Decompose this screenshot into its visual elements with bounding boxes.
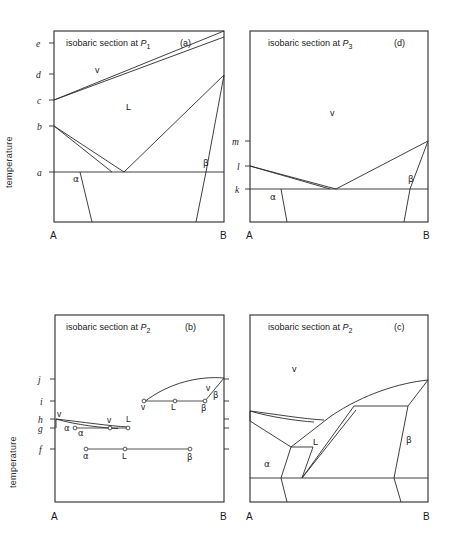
panel-b: isobaric section at P2 (b) v L β v β v α… <box>0 290 240 534</box>
panel-b-label-v-loop: v <box>206 383 211 393</box>
panel-d-region-beta: β <box>408 174 414 184</box>
panel-a-region-L: L <box>126 102 131 112</box>
panel-d-region-v: v <box>330 108 335 118</box>
panel-b-tieline-f <box>84 447 192 451</box>
panel-d-tick-l: l <box>237 162 240 172</box>
panel-d-ticks <box>245 141 250 189</box>
panel-c-corner-A: A <box>246 511 253 522</box>
panel-b-title: isobaric section at P2 <box>66 322 151 334</box>
panel-b-label-L-f: L <box>122 451 127 461</box>
panel-c-corner-B: B <box>423 511 430 522</box>
panel-c-solid-boundaries <box>250 406 428 502</box>
panel-c-tag: (c) <box>394 322 405 332</box>
panel-a-tick-c: c <box>37 96 42 106</box>
panel-c-region-v: v <box>292 364 297 374</box>
panel-d-tick-m: m <box>232 137 239 147</box>
panel-c-region-L: L <box>313 437 318 447</box>
panel-a-phase-boundaries <box>54 75 224 222</box>
panel-b-tick-f: f <box>39 445 43 455</box>
panel-b-tick-j: j <box>36 375 41 385</box>
phase-diagram-figure: temperature <box>0 0 454 534</box>
panel-d-frame <box>250 31 428 222</box>
panel-c-left-loop <box>250 411 324 422</box>
panel-a-corner-A: A <box>50 230 57 241</box>
panel-a-tick-a: a <box>37 168 42 178</box>
panel-b-ticks-left <box>50 379 55 449</box>
panel-b-tag: (b) <box>185 322 196 332</box>
panel-d-title: isobaric section at P3 <box>268 38 353 50</box>
panel-b-label-v-upper: v <box>141 402 146 412</box>
panel-b-label-v-left: v <box>57 409 62 419</box>
panel-b-label-L-upper: L <box>171 402 176 412</box>
panel-c: isobaric section at P2 (c) v L α β A B <box>224 290 454 534</box>
panel-a-region-beta: β <box>203 158 209 168</box>
panel-d-tick-k: k <box>235 185 240 195</box>
panel-b-label-v-tie: v <box>107 415 112 425</box>
panel-d-phase-boundaries <box>250 141 428 222</box>
panel-b-label-beta-f: β <box>187 452 192 462</box>
panel-a-region-alpha: α <box>73 174 79 184</box>
panel-d: isobaric section at P3 (d) v α β A B m l… <box>224 0 454 250</box>
panel-b-upper-loop <box>144 378 224 402</box>
panel-c-region-beta: β <box>406 435 412 445</box>
panel-d-tag: (d) <box>394 38 405 48</box>
panel-b-label-alpha-f: α <box>83 451 89 461</box>
panel-d-corner-A: A <box>246 230 253 241</box>
panel-b-corner-A: A <box>51 511 58 522</box>
panel-a-tick-e: e <box>36 39 40 49</box>
panel-c-frame <box>250 315 428 502</box>
panel-b-label-alpha-left: α <box>64 423 70 433</box>
panel-d-corner-B: B <box>423 230 430 241</box>
panel-b-label-beta-upper: β <box>201 403 206 413</box>
panel-b-label-alpha-tie: α <box>78 428 84 438</box>
panel-b-tick-i: i <box>40 397 43 407</box>
panel-a: isobaric section at P1 (a) v L α β A B e… <box>0 0 240 250</box>
panel-a-tick-d: d <box>36 70 41 80</box>
panel-d-region-alpha: α <box>270 192 276 202</box>
panel-a-tag: (a) <box>180 38 191 48</box>
panel-a-ticks <box>49 43 54 172</box>
panel-b-label-beta-loop: β <box>213 390 218 400</box>
panel-a-frame <box>54 31 224 222</box>
panel-a-title-prefix: isobaric section at <box>66 38 141 48</box>
panel-a-region-v: v <box>95 65 100 75</box>
panel-a-tick-b: b <box>37 122 42 132</box>
panel-b-frame <box>55 315 224 502</box>
panel-a-title: isobaric section at P1 <box>66 38 151 50</box>
panel-c-vapor-boundary <box>331 380 428 416</box>
panel-c-region-alpha: α <box>264 459 270 469</box>
panel-b-label-L-tie: L <box>126 414 131 424</box>
panel-b-tick-g: g <box>38 424 43 434</box>
panel-c-title: isobaric section at P2 <box>268 322 353 334</box>
